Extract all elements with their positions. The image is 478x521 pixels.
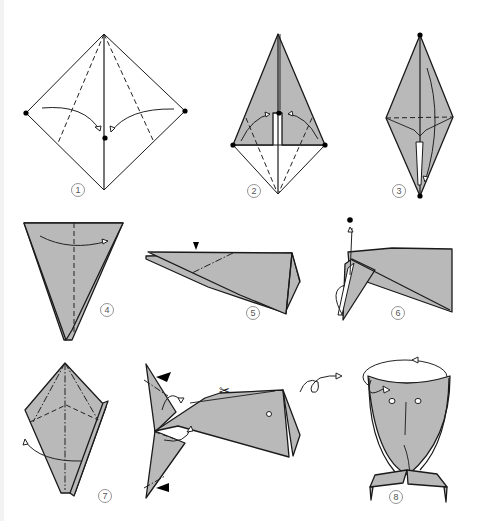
svg-text:1: 1 bbox=[75, 185, 80, 195]
push-mark-icon bbox=[193, 242, 199, 250]
step-7: 7 bbox=[23, 363, 112, 503]
step-8: 8 bbox=[363, 357, 450, 504]
step-number-7: 7 bbox=[99, 490, 112, 503]
step-2: 2 bbox=[230, 34, 327, 198]
step-number-1: 1 bbox=[72, 184, 85, 197]
whale-side-view: ✂ bbox=[144, 364, 300, 498]
step-number-8: 8 bbox=[390, 491, 403, 504]
step-number-3: 3 bbox=[393, 185, 406, 198]
svg-text:5: 5 bbox=[250, 308, 255, 318]
push-mark-icon bbox=[156, 372, 171, 382]
svg-text:3: 3 bbox=[396, 186, 401, 196]
svg-text:4: 4 bbox=[104, 305, 109, 315]
turn-over-arrow-icon bbox=[300, 373, 342, 392]
svg-text:7: 7 bbox=[102, 491, 107, 501]
step-number-2: 2 bbox=[248, 185, 261, 198]
step-number-4: 4 bbox=[101, 304, 114, 317]
step-4: 4 bbox=[24, 223, 123, 340]
push-mark-icon bbox=[156, 483, 169, 492]
step-3: 3 bbox=[386, 32, 453, 198]
scissors-icon: ✂ bbox=[219, 383, 230, 398]
svg-text:6: 6 bbox=[395, 308, 400, 318]
step-1: 1 bbox=[23, 34, 187, 197]
step-number-5: 5 bbox=[247, 307, 260, 320]
svg-text:8: 8 bbox=[393, 492, 398, 502]
origami-diagram: 1 2 3 bbox=[0, 0, 478, 521]
step-number-6: 6 bbox=[392, 307, 405, 320]
svg-text:2: 2 bbox=[251, 186, 256, 196]
step-5: 5 bbox=[146, 242, 300, 320]
step-6: 6 bbox=[336, 217, 452, 320]
